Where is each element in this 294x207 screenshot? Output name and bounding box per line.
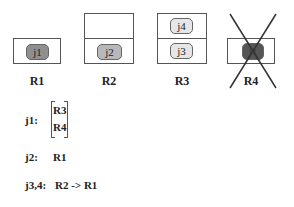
migration-j2-label: j2:	[25, 151, 38, 163]
migration-j1-label: j1:	[25, 114, 38, 126]
migration-j2-target: R1	[53, 151, 66, 163]
cross-out-icon	[0, 0, 294, 207]
target-r3: R3	[53, 104, 66, 116]
migration-j1-targets: R3 R4	[51, 101, 68, 138]
migration-j34-target: R2 -> R1	[55, 179, 97, 191]
migration-j34-label: j3,4:	[25, 179, 46, 191]
target-r4: R4	[53, 121, 66, 133]
